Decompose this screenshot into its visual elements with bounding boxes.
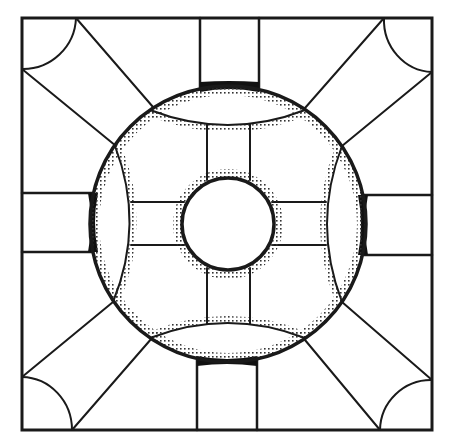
lens-arcs <box>113 110 342 338</box>
inner-spokes <box>131 124 326 324</box>
corner-arc-top-right <box>384 18 432 72</box>
inner-circle <box>182 178 274 270</box>
outer-channels <box>22 18 432 430</box>
geometric-plan-diagram <box>0 0 450 448</box>
outer-square <box>22 18 432 430</box>
corner-arc-bottom-right <box>380 380 432 430</box>
corner-arc-bottom-left <box>22 377 72 430</box>
corner-arc-top-left <box>22 18 76 69</box>
diagram-canvas <box>0 0 450 448</box>
diagonal-bands <box>22 18 432 430</box>
inner-ring-hatch <box>177 173 279 275</box>
